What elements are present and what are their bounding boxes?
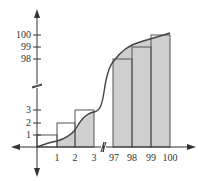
x-tick-label: 3 <box>92 152 97 163</box>
y-axis-arrow-up <box>34 9 40 18</box>
x-tick-label: 2 <box>73 152 78 163</box>
x-axis-arrow-right <box>187 144 196 150</box>
y-tick-label: 99 <box>21 41 31 52</box>
y-tick-label: 100 <box>16 29 31 40</box>
x-tick-label: 99 <box>146 152 156 163</box>
y-axis-arrow-down <box>34 168 40 177</box>
x-axis-arrow-left <box>11 144 20 150</box>
x-tick-label: 98 <box>127 152 137 163</box>
y-tick-label: 98 <box>21 53 31 64</box>
x-tick-label: 100 <box>163 152 178 163</box>
y-tick-label: 2 <box>26 117 31 128</box>
x-tick-label: 97 <box>109 152 119 163</box>
x-tick-label: 1 <box>55 152 60 163</box>
y-axis-break <box>32 84 42 88</box>
y-tick-label: 1 <box>26 129 31 140</box>
riemann-sum-chart: 100 99 98 3 2 1 1 2 3 97 98 99 100 <box>0 0 198 181</box>
x-axis-break <box>101 142 106 152</box>
y-tick-label: 3 <box>26 104 31 115</box>
shaded-area-right <box>113 33 170 147</box>
